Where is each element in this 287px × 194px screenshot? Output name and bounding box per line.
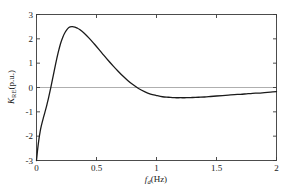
plot-background [0,0,287,194]
x-tick-label: 2 [274,164,279,173]
x-tick-label: 0.5 [91,164,102,173]
y-tick-label: -1 [18,107,33,116]
x-axis-title: fd(Hz) [145,175,167,184]
y-axis-title-unit: (p.u.) [6,70,16,90]
y-axis-title-subscript: RE [10,90,17,98]
y-tick-label: -3 [18,156,33,165]
y-tick-label: 3 [18,10,33,19]
y-tick-label: 2 [18,34,33,43]
figure-canvas: 00.511.52 3210-1-2-3 fd(Hz) KRE(p.u.) [0,0,287,194]
y-tick-label: 0 [18,83,33,92]
y-tick-label: -2 [18,132,33,141]
chart-plot-area [0,0,287,194]
x-axis-title-subscript: d [147,178,150,185]
y-tick-label: 1 [18,59,33,68]
x-tick-label: 1 [154,164,159,173]
y-axis-title-variable: K [6,98,16,104]
y-axis-title: KRE(p.u.) [7,70,16,104]
x-tick-label: 1.5 [211,164,222,173]
x-tick-label: 0 [34,164,39,173]
x-axis-title-unit: (Hz) [151,174,168,184]
